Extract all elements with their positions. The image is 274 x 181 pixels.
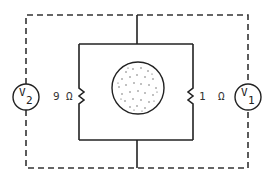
resistor-right-value: 1 <box>199 90 206 103</box>
resistor-left-value: 9 <box>53 90 60 103</box>
voltmeter-v2-subscript: 2 <box>26 94 33 107</box>
voltmeter-v1-subscript: 1 <box>248 94 255 107</box>
resistor-left-unit: Ω <box>66 90 73 103</box>
voltmeter-v1-symbol: V <box>241 86 248 99</box>
resistor-left-symbol <box>79 44 84 140</box>
voltmeter-v2: V 2 <box>13 84 39 110</box>
sample-disk <box>112 62 164 114</box>
resistor-right-unit: Ω <box>218 90 225 103</box>
resistor-right-symbol <box>188 44 193 140</box>
voltmeter-v2-symbol: V <box>19 86 26 99</box>
resistor-left-label: 9 Ω <box>53 90 73 103</box>
resistor-right-label: 1 Ω <box>199 90 225 103</box>
voltmeter-v1: V 1 <box>235 84 261 110</box>
circuit-diagram: V 2 V 1 9 Ω 1 Ω <box>0 0 274 181</box>
